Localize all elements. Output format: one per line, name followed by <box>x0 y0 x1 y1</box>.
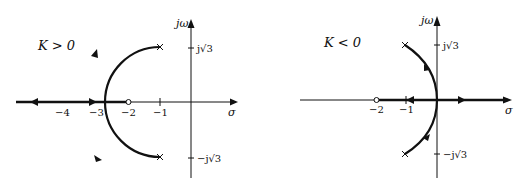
y-tick-label: j√3 <box>442 40 459 51</box>
sigma-axis-arrow-icon <box>230 99 238 106</box>
locus-arc-arrow-icon <box>91 49 98 58</box>
x-tick-label: −4 <box>55 107 70 118</box>
jw-axis-arrow-icon <box>188 19 195 28</box>
x-tick-label: −1 <box>153 107 168 118</box>
y-tick-label: j√3 <box>196 43 213 54</box>
root-locus-figure: K > 0 −4 −3 −2 −1 σ jω j√3 −j√3 <box>0 0 524 189</box>
pole-marker-icon <box>402 42 408 48</box>
x-axis-label: σ <box>228 106 236 119</box>
locus-direction-arrow-icon <box>89 98 97 106</box>
y-axis-label: jω <box>173 17 188 30</box>
zero-marker-icon <box>126 100 131 105</box>
panel-title: K < 0 <box>323 35 361 50</box>
panel-k-negative: K < 0 −2 −1 σ jω j√3 −j√3 <box>300 14 513 178</box>
panel-k-positive: K > 0 −4 −3 −2 −1 σ jω j√3 −j√3 <box>16 17 238 178</box>
locus-direction-arrow-icon <box>458 96 466 104</box>
pole-marker-icon <box>402 151 408 157</box>
locus-arc-arrow-icon <box>94 155 102 162</box>
jw-axis-arrow-icon <box>434 16 441 26</box>
sigma-axis-arrow-icon <box>503 97 512 104</box>
x-tick-label: −2 <box>121 107 136 118</box>
locus-direction-arrow-icon <box>406 96 414 104</box>
x-tick-label: −1 <box>399 104 414 115</box>
x-axis-label: σ <box>505 104 513 117</box>
y-axis-label: jω <box>418 14 433 27</box>
y-tick-label: −j√3 <box>443 149 467 160</box>
x-tick-label: −2 <box>369 104 384 115</box>
y-tick-label: −j√3 <box>197 153 221 164</box>
zero-marker-icon <box>374 98 379 103</box>
x-tick-label: −3 <box>89 107 104 118</box>
panel-title: K > 0 <box>37 38 75 53</box>
locus-direction-arrow-icon <box>30 98 38 106</box>
